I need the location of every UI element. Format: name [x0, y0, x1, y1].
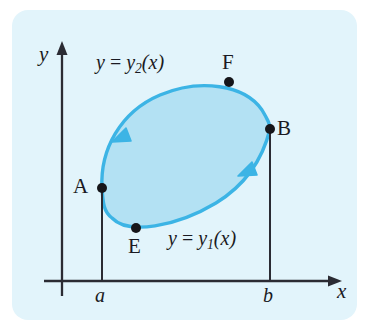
upper-curve-equation-label: y = y2(x)	[96, 52, 164, 75]
shaded-region	[102, 86, 268, 227]
point-label-f: F	[222, 52, 234, 73]
point-marker-b	[265, 124, 275, 134]
x-tick-label-a: a	[95, 285, 105, 305]
upper-eq-operator: =	[110, 51, 121, 73]
lower-eq-subscript: 1	[207, 237, 214, 252]
y-axis-arrowhead-icon	[57, 41, 68, 55]
upper-eq-fn: y	[126, 51, 135, 73]
lower-curve-equation-label: y = y1(x)	[168, 228, 236, 251]
y-axis-label: y	[39, 44, 48, 65]
lower-eq-operator: =	[182, 227, 193, 249]
upper-eq-argument: (x)	[142, 51, 164, 73]
upper-eq-lhs: y	[96, 51, 105, 73]
upper-eq-subscript: 2	[135, 61, 142, 76]
lower-eq-argument: (x)	[214, 227, 236, 249]
point-label-e: E	[128, 236, 141, 257]
lower-eq-fn: y	[198, 227, 207, 249]
figure-container: y = y2(x) y = y1(x) y x a b A B E F	[0, 0, 367, 328]
point-label-a: A	[73, 176, 88, 197]
point-label-b: B	[277, 118, 291, 139]
point-marker-a	[97, 183, 107, 193]
figure-graphics	[0, 0, 367, 328]
point-marker-f	[224, 77, 234, 87]
lower-eq-lhs: y	[168, 227, 177, 249]
point-marker-e	[131, 223, 141, 233]
x-tick-label-b: b	[263, 285, 273, 305]
x-axis-label: x	[337, 281, 346, 302]
